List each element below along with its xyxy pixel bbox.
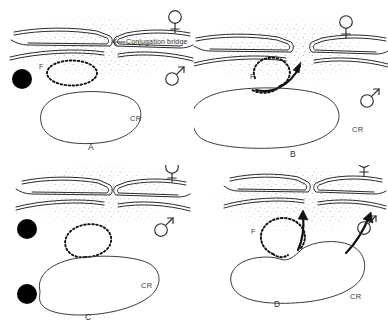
- female-symbol: [166, 165, 179, 182]
- f-factor-tail: [273, 254, 288, 257]
- panel-a: Conjugation bridge F CR A: [0, 0, 194, 165]
- panel-letter-d: D: [274, 300, 280, 309]
- panel-letter-a: A: [88, 143, 94, 152]
- f-factor-label: F: [250, 73, 254, 80]
- chromosome-outline: [194, 88, 339, 148]
- f-factor-label: F: [39, 63, 43, 70]
- male-symbol: [155, 218, 173, 236]
- panel-letter-b: B: [290, 150, 296, 159]
- f-factor-label: F: [251, 228, 255, 235]
- panel-b: F CR B: [194, 0, 388, 165]
- chromosome-label: CR: [350, 293, 362, 301]
- conjugation-figure: Conjugation bridge F CR A: [0, 0, 388, 330]
- granule: [12, 69, 32, 89]
- chromosome-label: CR: [352, 126, 364, 134]
- panel-c: CR C: [0, 165, 194, 330]
- conjugation-bridge-label: Conjugation bridge: [126, 38, 187, 45]
- panel-d: F CR D: [194, 165, 388, 330]
- chromosome-outline: [41, 92, 141, 144]
- chromosome-label: CR: [130, 115, 142, 123]
